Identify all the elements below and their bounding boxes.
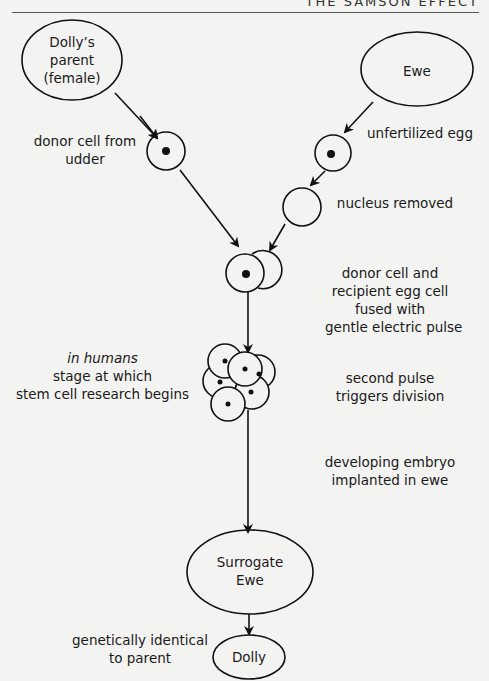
fused-line4: gentle electric pulse xyxy=(325,318,455,336)
second-pulse-line2: triggers division xyxy=(330,387,450,405)
parent-node: Dolly’s parent (female) xyxy=(22,33,122,87)
fused-label: donor cell and recipient egg cell fused … xyxy=(325,264,455,336)
parent-line2: parent xyxy=(22,51,122,69)
embryo-line2: implanted in ewe xyxy=(320,471,460,489)
surrogate-node: Surrogate Ewe xyxy=(200,553,300,589)
surrogate-line2: Ewe xyxy=(200,571,300,589)
second-pulse-label: second pulse triggers division xyxy=(330,369,450,405)
identical-line2: to parent xyxy=(65,649,215,667)
fused-line1: donor cell and xyxy=(325,264,455,282)
humans-line1: in humans xyxy=(15,349,190,367)
donor-cell-line2: udder xyxy=(25,150,145,168)
arrow-egg-to-fused xyxy=(270,224,285,250)
embryo-line1: developing embryo xyxy=(320,453,460,471)
enucleated-egg xyxy=(283,188,321,226)
parent-line3: (female) xyxy=(22,69,122,87)
identical-line1: genetically identical xyxy=(65,631,215,649)
embryo-label: developing embryo implanted in ewe xyxy=(320,453,460,489)
nucleus-removed-label: nucleus removed xyxy=(335,194,455,212)
humans-line3: stem cell research begins xyxy=(15,385,190,403)
second-pulse-line1: second pulse xyxy=(330,369,450,387)
ewe-node: Ewe xyxy=(367,62,467,80)
humans-label: in humans stage at which stem cell resea… xyxy=(15,349,190,403)
unfertilized-egg-label: unfertilized egg xyxy=(360,124,480,142)
dolly-node: Dolly xyxy=(209,648,289,666)
cell-cluster xyxy=(203,344,275,421)
donor-cell-line1: donor cell from xyxy=(25,132,145,150)
fused-line2: recipient egg cell xyxy=(325,282,455,300)
arrow-egg-to-enucleated xyxy=(311,171,325,185)
humans-line2: stage at which xyxy=(15,367,190,385)
surrogate-line1: Surrogate xyxy=(200,553,300,571)
fused-egg-back xyxy=(252,251,282,289)
donor-cell-label: donor cell from udder xyxy=(25,132,145,168)
fused-line3: fused with xyxy=(325,300,455,318)
arrow-donor-to-fused xyxy=(180,170,238,246)
identical-label: genetically identical to parent xyxy=(65,631,215,667)
parent-line1: Dolly’s xyxy=(22,33,122,51)
